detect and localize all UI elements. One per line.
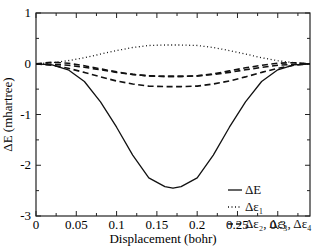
legend-item-delta-e: ΔE (228, 181, 312, 198)
y-tick-label: -1 (20, 107, 31, 122)
y-tick-label: -2 (20, 157, 31, 172)
y-axis-label: ΔE (mhartree) (0, 77, 15, 151)
y-tick-label: 0 (25, 56, 32, 71)
x-tick-label: 0.15 (146, 217, 169, 232)
y-tick-label: 1 (25, 5, 32, 20)
series-line (36, 64, 310, 87)
series-line (36, 45, 310, 64)
series-line (36, 62, 310, 76)
x-tick-label: 0.2 (189, 217, 205, 232)
x-tick-label: 0.05 (65, 217, 88, 232)
plot-series (36, 45, 310, 188)
legend-item-delta-eps1: Δε₁ (228, 198, 312, 215)
series-line (36, 64, 310, 188)
y-tick-label: -3 (20, 208, 31, 223)
legend-item-delta-eps234: Δε₂, Δε₃, Δε₄ (228, 215, 312, 232)
x-tick-label: 0.1 (108, 217, 124, 232)
x-axis-label: Displacement (bohr) (109, 231, 216, 246)
x-tick-label: 0 (33, 217, 40, 232)
legend: ΔE Δε₁ Δε₂, Δε₃, Δε₄ (228, 181, 312, 232)
